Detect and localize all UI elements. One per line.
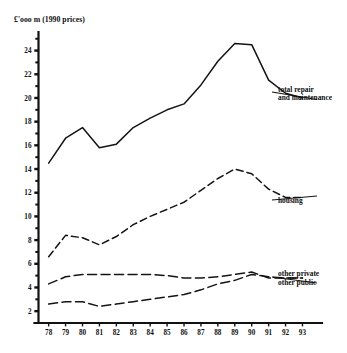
x-tick-label: 89 (231, 329, 239, 337)
series-label-total-repair-and-maintenance: and maintenance (278, 93, 333, 102)
chart-background (0, 0, 347, 353)
x-tick-label: 93 (299, 329, 307, 337)
y-tick-label: 12 (24, 189, 32, 197)
y-tick-label: 14 (24, 166, 32, 174)
series-label-other-public: other public (278, 278, 317, 287)
series-label-housing: housing (278, 196, 303, 205)
x-tick-label: 92 (282, 329, 290, 337)
x-tick-label: 83 (130, 329, 138, 337)
x-tick-label: 90 (248, 329, 256, 337)
y-tick-label: 18 (24, 118, 32, 126)
axis-title-group: £'ooo m (1990 prices) (14, 15, 85, 24)
x-tick-label: 79 (62, 329, 70, 337)
y-tick-label: 8 (28, 237, 32, 245)
x-tick-label: 80 (79, 329, 87, 337)
y-tick-label: 24 (24, 47, 32, 55)
x-tick-label: 88 (214, 329, 222, 337)
y-tick-label: 16 (24, 142, 32, 150)
y-tick-label: 10 (24, 213, 32, 221)
y-tick-label: 6 (28, 260, 32, 268)
chart-container: £'ooo m (1990 prices) 246810121416182022… (0, 0, 347, 353)
x-tick-label: 87 (197, 329, 205, 337)
x-tick-label: 81 (96, 329, 104, 337)
x-tick-label: 78 (45, 329, 53, 337)
y-tick-label: 22 (24, 71, 32, 79)
x-tick-label: 86 (180, 329, 188, 337)
y-tick-label: 2 (28, 308, 32, 316)
x-tick-label: 91 (265, 329, 273, 337)
line-chart: £'ooo m (1990 prices) 246810121416182022… (0, 0, 347, 353)
y-tick-label: 20 (24, 95, 32, 103)
series-label-other-private: other private (278, 269, 320, 278)
x-tick-label: 85 (164, 329, 172, 337)
y-tick-label: 4 (28, 284, 32, 292)
chart-axis-title: £'ooo m (1990 prices) (14, 15, 85, 24)
x-tick-label: 82 (113, 329, 121, 337)
x-tick-label: 84 (147, 329, 155, 337)
